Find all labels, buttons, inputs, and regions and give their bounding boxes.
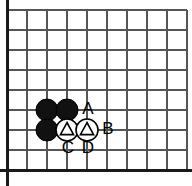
stone-black[interactable] — [36, 119, 58, 141]
stone-black[interactable] — [36, 99, 58, 121]
board-background — [0, 0, 192, 186]
stone-black[interactable] — [56, 99, 78, 121]
stone-white[interactable] — [76, 119, 98, 141]
go-board-canvas[interactable] — [0, 0, 192, 186]
stone-disc — [56, 99, 78, 121]
go-board-diagram: A B C D — [0, 0, 192, 186]
stone-disc — [36, 119, 58, 141]
stone-white[interactable] — [56, 119, 78, 141]
stone-disc — [36, 99, 58, 121]
